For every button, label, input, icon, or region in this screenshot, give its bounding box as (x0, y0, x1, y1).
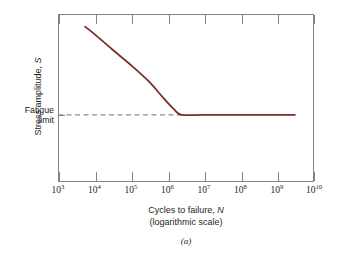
x-tick-exponent-6: 9 (280, 183, 283, 190)
x-axis-title-text: Cycles to failure, (148, 205, 217, 215)
x-tick-mantissa-5: 10 (234, 185, 244, 195)
fatigue-sn-curve-figure: 103 104 105 106 107 108 109 1010 Stress … (0, 0, 354, 256)
x-tick-mantissa-7: 10 (306, 185, 316, 195)
x-tick-label-5: 108 (234, 186, 247, 196)
x-tick-top-6 (278, 15, 279, 24)
figure-caption: (a) (58, 236, 314, 246)
x-tick-exponent-3: 6 (171, 183, 174, 190)
x-tick-exponent-4: 7 (207, 183, 210, 190)
x-tick-bottom-0 (59, 172, 60, 181)
x-tick-exponent-0: 3 (61, 183, 64, 190)
x-tick-mantissa-1: 10 (88, 185, 98, 195)
x-tick-mantissa-3: 10 (161, 185, 171, 195)
x-axis-title-main: Cycles to failure, N (58, 205, 314, 217)
x-tick-top-0 (59, 15, 60, 24)
fatigue-limit-label-line2: limit (0, 115, 54, 125)
x-tick-exponent-1: 4 (98, 183, 101, 190)
x-tick-mantissa-6: 10 (271, 185, 281, 195)
x-axis-title-sub: (logarithmic scale) (58, 217, 314, 229)
x-axis-title: Cycles to failure, N (logarithmic scale) (58, 205, 314, 228)
x-tick-mantissa-0: 10 (52, 185, 62, 195)
x-tick-bottom-6 (278, 172, 279, 181)
x-tick-bottom-7 (314, 172, 315, 181)
fatigue-limit-label-line1: Fatigue (0, 105, 54, 115)
x-tick-label-3: 106 (161, 186, 174, 196)
x-tick-label-2: 105 (125, 186, 138, 196)
x-tick-label-1: 104 (88, 186, 101, 196)
x-tick-top-7 (314, 15, 315, 24)
x-tick-exponent-2: 5 (134, 183, 137, 190)
x-tick-exponent-5: 8 (244, 183, 247, 190)
x-tick-label-7: 1010 (306, 186, 322, 196)
x-tick-bottom-4 (205, 172, 206, 181)
x-tick-label-0: 103 (52, 186, 65, 196)
x-tick-bottom-2 (132, 172, 133, 181)
x-tick-top-1 (96, 15, 97, 24)
x-tick-label-4: 107 (198, 186, 211, 196)
plot-frame (58, 14, 314, 182)
x-tick-bottom-1 (96, 172, 97, 181)
x-tick-top-5 (242, 15, 243, 24)
fatigue-limit-label: Fatigue limit (0, 105, 54, 125)
x-tick-top-4 (205, 15, 206, 24)
x-tick-bottom-5 (242, 172, 243, 181)
x-tick-bottom-3 (169, 172, 170, 181)
x-axis-title-symbol: N (217, 205, 224, 215)
x-tick-mantissa-2: 10 (125, 185, 135, 195)
x-tick-exponent-7: 10 (315, 183, 322, 190)
x-tick-top-2 (132, 15, 133, 24)
y-tick-fatigue-limit (59, 115, 65, 116)
x-tick-top-3 (169, 15, 170, 24)
y-axis-title-symbol: S (33, 57, 43, 63)
x-tick-mantissa-4: 10 (198, 185, 208, 195)
y-axis-title: Stress amplitude, S (34, 12, 43, 182)
x-tick-label-6: 109 (271, 186, 284, 196)
